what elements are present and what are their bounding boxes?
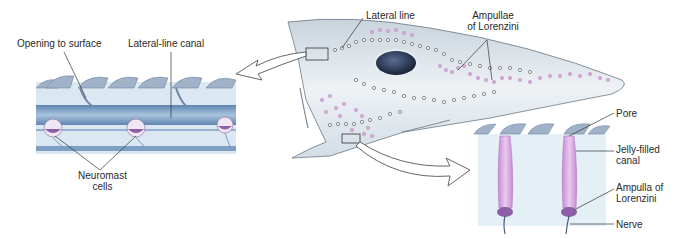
label-opening-to-surface: Opening to surface: [17, 38, 102, 49]
label-line: of Lorenzini: [458, 21, 528, 32]
label-lateral-line: Lateral line: [366, 10, 415, 21]
diagram-graphics: [0, 0, 677, 239]
label-line: Neuromast: [75, 170, 130, 181]
label-ampulla-of-lorenzini: Ampulla of Lorenzini: [616, 182, 663, 204]
ampullae-panel: [474, 113, 614, 234]
shark-sensory-diagram: Opening to surface Lateral-line canal La…: [0, 0, 677, 239]
label-nerve: Nerve: [616, 219, 643, 230]
label-neuromast-cells: Neuromast cells: [75, 170, 130, 192]
label-pore: Pore: [616, 108, 637, 119]
label-line: Ampullae: [458, 10, 528, 21]
lateral-line-panel: [36, 52, 236, 170]
label-line: Lorenzini: [616, 193, 663, 204]
label-line: Ampulla of: [616, 182, 663, 193]
label-jelly-filled-canal: Jelly-filled canal: [616, 144, 660, 166]
label-lateral-line-canal: Lateral-line canal: [128, 38, 204, 49]
label-line: canal: [616, 155, 660, 166]
label-line: cells: [75, 181, 130, 192]
label-line: Jelly-filled: [616, 144, 660, 155]
label-ampullae-of-lorenzini: Ampullae of Lorenzini: [458, 10, 528, 32]
